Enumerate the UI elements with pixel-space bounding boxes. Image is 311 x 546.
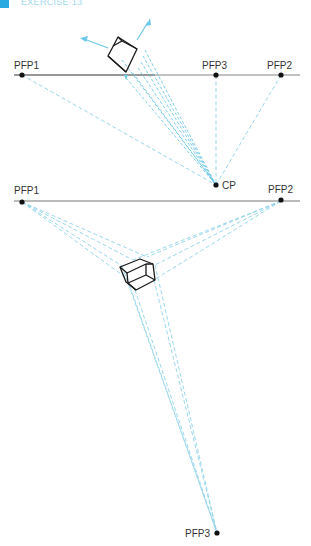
top-cp-point (213, 182, 218, 187)
top-pfp3-point (213, 72, 218, 77)
top-figure: PFP1 PFP3 PFP2 CP (14, 18, 300, 191)
top-cube (108, 37, 137, 72)
perspective-diagram: PFP1 PFP3 PFP2 CP (0, 0, 311, 546)
arrow-left-icon (80, 36, 88, 42)
bottom-pfp3-point (214, 530, 219, 535)
bottom-pfp1-point (19, 199, 24, 204)
arrow-up-icon (146, 18, 151, 26)
bottom-pfp2-label: PFP2 (268, 184, 293, 195)
bottom-figure: PFP1 PFP2 PFP3 (14, 184, 300, 539)
axis-arrows (80, 18, 151, 80)
top-pfp1-label: PFP1 (14, 60, 39, 71)
bottom-pfp1-label: PFP1 (14, 185, 39, 196)
guides-from-pfp2 (133, 201, 281, 280)
guide-pfp2-cp (216, 75, 281, 185)
guides-to-pfp3 (122, 265, 217, 533)
top-pfp2-label: PFP2 (267, 60, 292, 71)
bottom-pfp2-point (278, 197, 283, 202)
top-cp-label: CP (222, 180, 236, 191)
guides-from-pfp1 (22, 202, 147, 277)
top-pfp1-point (19, 72, 24, 77)
bottom-pfp3-label: PFP3 (185, 528, 210, 539)
top-pfp3-label: PFP3 (202, 60, 227, 71)
top-pfp2-point (278, 72, 283, 77)
